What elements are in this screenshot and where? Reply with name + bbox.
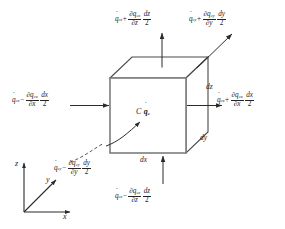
flux-expression-right: qcx + ∂qcx ∂x dx 2 bbox=[217, 92, 255, 109]
flux-expression-bottom: qcz − ∂qcz ∂z dz 2 bbox=[115, 188, 152, 205]
center-point-label: C bbox=[136, 107, 141, 116]
center-source-label: Cqc bbox=[136, 108, 150, 116]
dim-label-dy: dy bbox=[200, 134, 207, 141]
z-axis-label: z bbox=[15, 160, 18, 168]
source-term-subscript: c bbox=[148, 111, 150, 116]
flux-expression-bottom-left: qcy − ∂qcy ∂y dy 2 bbox=[54, 160, 92, 177]
flux-expression-left: qcx − ∂qcx ∂x dx 2 bbox=[12, 92, 50, 109]
flux-expression-top: qcz + ∂qcz ∂z dz 2 bbox=[115, 11, 152, 28]
flux-expression-top-right: qcy + ∂qcy ∂y dy 2 bbox=[189, 11, 227, 28]
arrow-flux-y-out bbox=[197, 34, 232, 68]
y-axis-label: y bbox=[46, 176, 50, 184]
dim-label-dz: dz bbox=[206, 83, 213, 90]
dim-label-dx: dx bbox=[140, 156, 147, 163]
y-axis bbox=[24, 180, 56, 212]
x-axis-label: x bbox=[63, 213, 67, 221]
